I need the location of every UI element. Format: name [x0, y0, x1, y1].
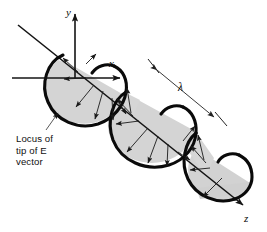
locus-caption-line-1: Locus of — [16, 133, 90, 145]
x-axis-label: x — [108, 57, 114, 69]
locus-caption-line-3: vector — [16, 156, 90, 168]
z-axis — [18, 25, 243, 205]
figure-canvas: y x z λ — [0, 0, 267, 232]
locus-caption-line-2: tip of E — [16, 145, 90, 157]
wavelength-label: λ — [177, 81, 183, 93]
z-axis-label: z — [243, 212, 249, 224]
y-axis-label: y — [65, 6, 71, 18]
locus-caption: Locus of tip of E vector — [16, 133, 90, 168]
locus-leader-line — [46, 113, 58, 130]
physics-figure-circular-polarization: y x z λ Locus of tip of E vector — [0, 0, 267, 232]
